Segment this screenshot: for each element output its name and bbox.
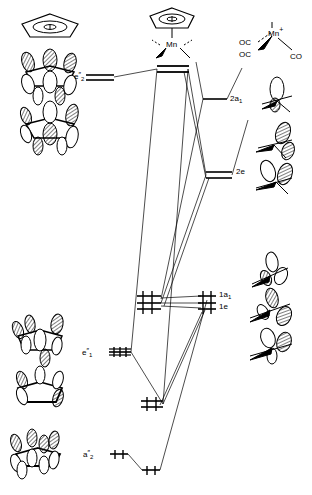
- metal-1a1-orbital: [252, 251, 290, 287]
- cp-e2-double-prime-orbital-upper: [19, 49, 78, 105]
- energy-level-2e: [206, 172, 232, 178]
- energy-level-a2-double-prime: [110, 450, 128, 459]
- carbonyl-label-3: CO: [290, 52, 302, 61]
- cpmn-fragment-drawing: [150, 8, 194, 58]
- energy-level-1a1-1e: [198, 291, 216, 314]
- energy-level-e2-double-prime: [86, 75, 114, 80]
- metal-2a1-hybrid-orbital: [262, 77, 292, 112]
- cp-e1-double-prime-orbital-lower: [14, 366, 65, 408]
- carbonyl-label-1: OC: [239, 38, 251, 47]
- level-label-e1-double-prime: e″1: [82, 347, 92, 359]
- metal-1e-orbital-lower: [250, 326, 294, 364]
- cp-ring-perspective-drawing: [22, 14, 78, 37]
- level-label-e2-double-prime: e″2: [74, 71, 84, 83]
- level-label-a2-double-prime: a″2: [83, 449, 93, 461]
- energy-level-center-nonbonding: [137, 291, 161, 314]
- level-label-2e: 2e: [236, 168, 245, 176]
- energy-level-center-bonding-a: [142, 466, 160, 475]
- correlation-lines: [114, 62, 248, 470]
- cp-a2-double-prime-orbital: [8, 429, 60, 479]
- energy-level-center-antibonding: [157, 66, 189, 72]
- mo-diagram-figure: Mn Mn+ OC OC CO e″2 e″1 a″2 2a1 2e 1a1 1…: [0, 0, 312, 495]
- cp-e2-double-prime-orbital-lower: [18, 101, 80, 155]
- metal-2e-orbital-upper: [256, 120, 297, 161]
- correlation-line-2a1-to-center: [161, 99, 203, 299]
- carbonyl-label-2: OC: [239, 50, 251, 59]
- metal-1e-orbital-upper: [250, 287, 295, 328]
- correlation-line-e1-to-bonding: [131, 352, 163, 404]
- level-label-1a1: 1a1: [219, 291, 231, 301]
- energy-level-e1-double-prime: [109, 347, 131, 357]
- fragment-guide-line-2a1: [196, 62, 203, 99]
- correlation-line-2e-to-center-a: [161, 175, 206, 303]
- diagram-canvas: [0, 0, 312, 495]
- level-label-2a1: 2a1: [230, 95, 242, 105]
- correlation-line-2e-to-center-b: [164, 178, 209, 306]
- cpmn-fragment-metal-label: Mn: [166, 40, 177, 49]
- correlation-line-e2-to-antibonding: [114, 69, 157, 77]
- correlation-line-bonding-a-to-1a1: [160, 300, 207, 470]
- cp-e1-double-prime-orbital-upper: [10, 313, 65, 367]
- metal-2e-orbital-lower: [256, 158, 295, 194]
- correlation-line-a2-to-bonding: [128, 454, 142, 470]
- mn-cation-metal-label: Mn+: [268, 26, 283, 38]
- correlation-line-center-to-1e-b: [161, 306, 201, 308]
- level-label-1e: 1e: [219, 303, 228, 311]
- correlation-line-antibonding-to-2e-b: [184, 72, 206, 178]
